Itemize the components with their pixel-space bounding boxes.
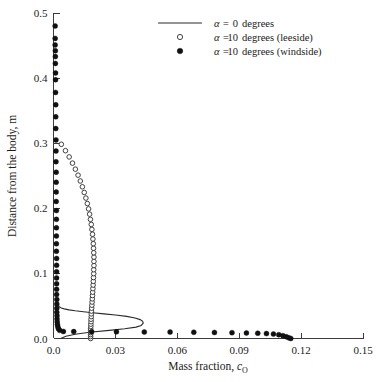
- data-point-windside: [53, 54, 58, 59]
- legend-label-legend-item-alpha-10-leeside: α =10degrees (leeside): [214, 32, 313, 44]
- data-point-leeside: [73, 167, 78, 172]
- data-point-leeside: [91, 246, 96, 251]
- data-point-windside: [54, 263, 59, 268]
- legend-label-legend-item-alpha-0: α =0degrees: [214, 18, 274, 29]
- data-point-windside: [142, 329, 147, 334]
- data-point-windside: [71, 329, 76, 334]
- data-point-windside: [53, 61, 58, 66]
- data-point-windside: [229, 330, 234, 335]
- data-point-windside: [53, 42, 58, 47]
- svg-text:Mass fraction, cO: Mass fraction, cO: [168, 360, 248, 375]
- chart-legend: α =0degreesα =10degrees (leeside)α =10de…: [158, 18, 322, 58]
- data-point-windside: [54, 199, 59, 204]
- x-axis-tick-label: 0.0: [47, 344, 61, 356]
- data-point-leeside: [80, 185, 85, 190]
- x-axis-tick-label: 0.03: [106, 344, 126, 356]
- data-point-leeside: [87, 212, 92, 217]
- chart-axes: [54, 13, 364, 339]
- data-point-leeside: [76, 173, 81, 178]
- data-point-windside: [53, 70, 58, 75]
- data-point-leeside: [67, 155, 72, 160]
- data-point-windside: [53, 159, 58, 164]
- legend-alpha-symbol: α =: [214, 18, 229, 29]
- data-point-leeside: [59, 142, 64, 147]
- data-point-leeside: [92, 255, 97, 260]
- x-axis-title-text: Mass fraction,: [168, 360, 234, 373]
- data-point-windside: [191, 330, 196, 335]
- data-point-windside: [53, 102, 58, 107]
- y-axis-tick-label: 0.2: [34, 202, 48, 214]
- data-point-windside: [54, 180, 59, 185]
- chart-series-layer: [53, 24, 294, 341]
- data-point-leeside: [63, 148, 68, 153]
- data-point-windside: [255, 331, 260, 336]
- data-point-windside: [54, 241, 59, 246]
- data-point-windside: [54, 269, 59, 274]
- legend-alpha-value: 0: [233, 18, 238, 29]
- data-point-windside: [264, 331, 269, 336]
- x-axis-tick-label: 0.12: [291, 344, 310, 356]
- legend-label-legend-item-alpha-10-windside: α =10degrees (windside): [214, 46, 322, 58]
- data-point-windside: [276, 332, 281, 337]
- data-point-windside: [89, 329, 94, 334]
- data-point-leeside: [70, 161, 75, 166]
- legend-swatch-filled-circle: [177, 48, 183, 54]
- y-axis-title-text: Distance from the body, m: [6, 115, 19, 237]
- chart-plot-area: 0.00.030.060.090.120.15 0.00.10.20.30.40…: [0, 0, 388, 382]
- x-axis-title: Mass fraction, cO: [168, 360, 248, 375]
- legend-alpha-suffix: degrees (windside): [242, 46, 322, 58]
- data-point-windside: [53, 24, 58, 29]
- data-point-windside: [54, 233, 59, 238]
- y-axis-tick-label: 0.3: [34, 137, 48, 149]
- data-point-windside: [53, 126, 58, 131]
- legend-alpha-suffix: degrees (leeside): [242, 32, 313, 44]
- data-point-leeside: [88, 217, 93, 222]
- data-point-leeside: [82, 190, 87, 195]
- legend-alpha-suffix: degrees: [242, 18, 274, 29]
- data-point-windside: [54, 225, 59, 230]
- data-point-windside: [168, 330, 173, 335]
- data-point-windside: [54, 217, 59, 222]
- chart-figure: 0.00.030.060.090.120.15 0.00.10.20.30.40…: [0, 0, 388, 382]
- data-point-windside: [54, 302, 59, 307]
- data-point-windside: [54, 281, 59, 286]
- y-axis-tick-label: 0.0: [34, 333, 48, 345]
- data-point-windside: [54, 275, 59, 280]
- data-point-windside: [53, 77, 58, 82]
- data-point-windside: [53, 48, 58, 53]
- series-markers-alpha-10-windside: [53, 24, 294, 341]
- data-point-windside: [54, 190, 59, 195]
- data-point-leeside: [86, 207, 91, 212]
- data-point-windside: [271, 332, 276, 337]
- y-axis-tick-label: 0.4: [34, 72, 48, 84]
- x-axis-tick-label: 0.06: [168, 344, 188, 356]
- y-axis-tick-label: 0.1: [34, 267, 48, 279]
- data-point-windside: [54, 297, 59, 302]
- data-point-leeside: [91, 237, 96, 242]
- data-point-windside: [54, 170, 59, 175]
- data-point-windside: [212, 330, 217, 335]
- data-point-leeside: [91, 241, 96, 246]
- legend-swatch-open-circle: [177, 34, 182, 39]
- data-point-windside: [53, 114, 58, 119]
- data-point-windside: [54, 208, 59, 213]
- x-axis-tick-label: 0.15: [353, 344, 373, 356]
- data-point-windside: [54, 249, 59, 254]
- x-axis-title-subscript: O: [242, 366, 248, 375]
- x-axis-ticks: 0.00.030.060.090.120.15: [47, 333, 374, 356]
- data-point-leeside: [91, 250, 96, 255]
- data-point-windside: [53, 137, 58, 142]
- legend-alpha-value: 10: [228, 32, 239, 43]
- y-axis-title: Distance from the body, m: [6, 115, 19, 237]
- legend-alpha-value: 10: [228, 46, 239, 57]
- data-point-leeside: [90, 232, 95, 237]
- data-point-windside: [53, 36, 58, 41]
- data-point-leeside: [84, 196, 89, 201]
- y-axis-tick-label: 0.5: [34, 7, 48, 19]
- data-point-windside: [114, 329, 119, 334]
- data-point-leeside: [89, 222, 94, 227]
- data-point-windside: [244, 330, 249, 335]
- data-point-leeside: [78, 179, 83, 184]
- data-point-windside: [53, 90, 58, 95]
- x-axis-tick-label: 0.09: [230, 344, 250, 356]
